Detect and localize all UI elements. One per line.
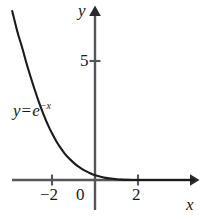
equation-exponent: −x bbox=[40, 100, 51, 111]
y-axis-label: y bbox=[78, 2, 86, 19]
equation-operator: = bbox=[21, 101, 33, 120]
tick-label-y-five: 5 bbox=[80, 52, 89, 69]
exponential-curve bbox=[12, 11, 194, 180]
x-axis-label: x bbox=[186, 196, 194, 213]
equation-lhs: y bbox=[13, 101, 21, 120]
y-axis-arrowhead bbox=[89, 6, 101, 17]
equation-annotation: y=e−x bbox=[13, 102, 51, 119]
tick-label-x-negative-two: −2 bbox=[40, 186, 58, 203]
equation-base: e bbox=[32, 101, 40, 120]
tick-label-origin: 0 bbox=[76, 186, 85, 203]
exponential-decay-figure: y x 0 −2 2 5 y=e−x bbox=[0, 0, 204, 219]
tick-label-x-positive-two: 2 bbox=[132, 186, 141, 203]
